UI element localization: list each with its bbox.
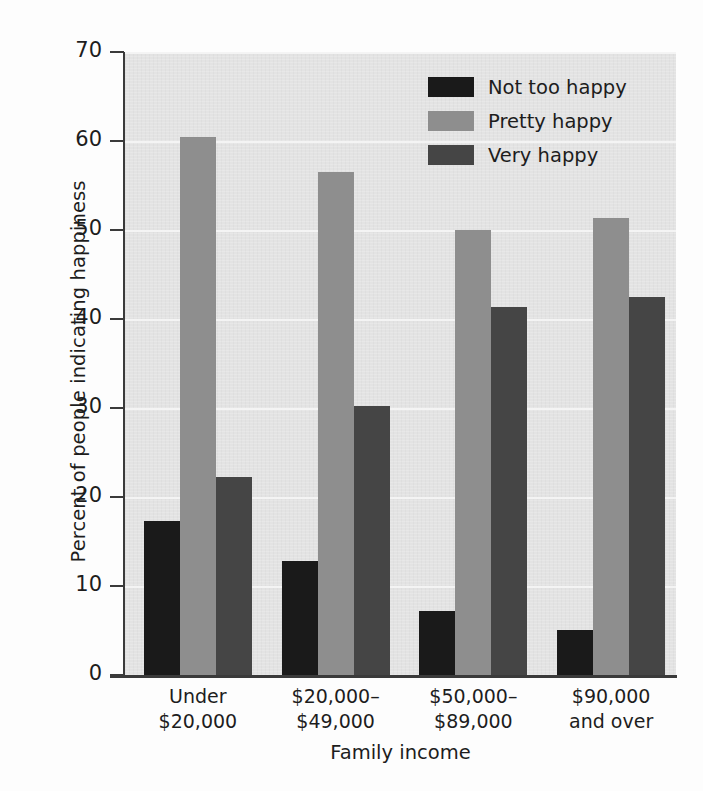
x-axis-title: Family income [125, 741, 676, 764]
x-tick-label-line: $89,000 [393, 709, 553, 734]
y-tick-mark [110, 229, 124, 231]
bar [593, 218, 629, 675]
legend-item-label: Not too happy [488, 76, 627, 99]
y-axis-line [123, 52, 125, 677]
y-tick-label: 0 [40, 661, 102, 685]
legend-swatch-black [428, 77, 474, 97]
y-tick-label: 30 [40, 394, 102, 418]
x-tick-label-line: $50,000– [393, 684, 553, 709]
y-tick-label: 60 [40, 127, 102, 151]
x-tick-label: $20,000–$49,000 [256, 684, 416, 734]
x-tick-label-line: $49,000 [256, 709, 416, 734]
y-tick-mark [110, 51, 124, 53]
legend-item: Very happy [428, 140, 627, 170]
bar [318, 172, 354, 675]
y-tick-mark [110, 496, 124, 498]
y-tick-mark [110, 407, 124, 409]
legend-swatch-dark-gray [428, 145, 474, 165]
y-tick-label: 70 [40, 38, 102, 62]
bar [491, 307, 527, 675]
legend-item: Pretty happy [428, 106, 627, 136]
y-tick-mark [110, 585, 124, 587]
legend-item: Not too happy [428, 72, 627, 102]
x-tick-label-line: $90,000 [531, 684, 691, 709]
bar [557, 630, 593, 675]
y-tick-label: 50 [40, 216, 102, 240]
y-tick-mark [110, 140, 124, 142]
bar [455, 230, 491, 675]
legend-item-label: Very happy [488, 144, 598, 167]
gridline [125, 52, 676, 54]
x-tick-label-line: $20,000– [256, 684, 416, 709]
x-tick-label: Under$20,000 [118, 684, 278, 734]
bar [144, 521, 180, 675]
bar [216, 477, 252, 675]
x-tick-label-line: and over [531, 709, 691, 734]
bar [354, 406, 390, 675]
legend-item-label: Pretty happy [488, 110, 613, 133]
y-tick-label: 10 [40, 572, 102, 596]
x-tick-label-line: $20,000 [118, 709, 278, 734]
x-tick-label: $50,000–$89,000 [393, 684, 553, 734]
figure-canvas: Percent of people indicating happiness 0… [0, 0, 703, 791]
page-bleed-through [0, 770, 703, 791]
x-tick-label-line: Under [118, 684, 278, 709]
bar [629, 297, 665, 675]
x-tick-label: $90,000and over [531, 684, 691, 734]
legend-swatch-gray [428, 111, 474, 131]
y-tick-mark [110, 318, 124, 320]
bar [180, 137, 216, 675]
x-axis-line [110, 675, 677, 678]
bar [282, 561, 318, 675]
legend: Not too happyPretty happyVery happy [428, 72, 627, 174]
y-tick-label: 20 [40, 483, 102, 507]
bar [419, 611, 455, 675]
y-tick-label: 40 [40, 305, 102, 329]
